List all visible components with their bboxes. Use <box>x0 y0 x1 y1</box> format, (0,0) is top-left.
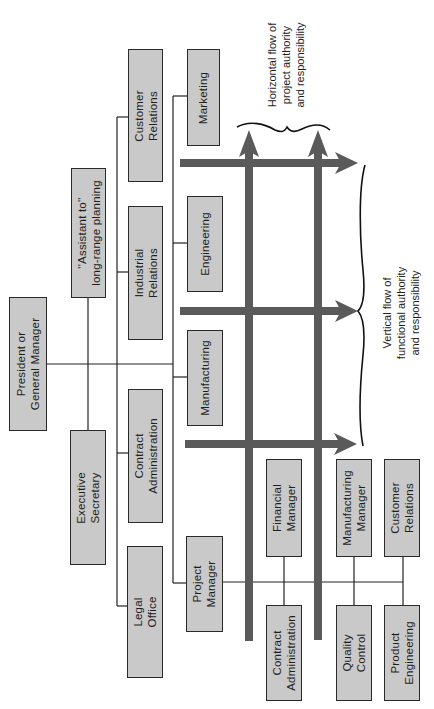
quality-control-label: Quality Control <box>340 634 368 672</box>
contract-administration-staff-box: Contract Administration <box>128 389 163 523</box>
product-engineering-box: Product Engineering <box>384 605 420 701</box>
manufacturing-manager-box: Manufacturing Manager <box>336 459 372 557</box>
vertical-flow-label: Vertical flow of functional authority an… <box>380 266 422 358</box>
marketing-box: Marketing <box>187 49 220 146</box>
contract-administration-staff-label: Contract Administration <box>132 418 160 494</box>
customer-relations-project-box: Customer Relations <box>384 459 420 557</box>
manufacturing-label: Manufacturing <box>198 340 212 415</box>
executive-secretary-box: Executive Secretary <box>70 430 106 565</box>
legal-office-label: Legal Office <box>131 596 159 627</box>
contract-administration-project-box: Contract Administration <box>266 605 302 701</box>
manufacturing-manager-label: Manufacturing Manager <box>340 470 368 545</box>
customer-relations-staff-box: Customer Relations <box>128 49 163 182</box>
horizontal-flow-label: Horizontal flow of project authority and… <box>264 23 306 108</box>
industrial-relations-box: Industrial Relations <box>128 206 163 340</box>
marketing-label: Marketing <box>197 71 211 123</box>
president-box: President or General Manager <box>9 297 47 431</box>
customer-relations-project-label: Customer Relations <box>388 482 416 533</box>
engineering-box: Engineering <box>187 196 223 292</box>
customer-relations-staff-label: Customer Relations <box>132 90 160 141</box>
assistant-long-range-planning-box: ''Assistant to'' long-range planning <box>71 168 106 298</box>
financial-manager-label: Financial Manager <box>270 484 298 532</box>
engineering-label: Engineering <box>198 212 212 276</box>
legal-office-box: Legal Office <box>127 546 163 678</box>
vertical-flow-annotation: Vertical flow of functional authority an… <box>368 240 434 385</box>
project-manager-box: Project Manager <box>186 536 223 632</box>
president-label: President or General Manager <box>14 318 42 411</box>
financial-manager-box: Financial Manager <box>266 459 302 557</box>
assistant-label: ''Assistant to'' long-range planning <box>75 180 103 285</box>
horizontal-flow-annotation: Horizontal flow of project authority and… <box>250 10 320 120</box>
project-manager-label: Project Manager <box>191 561 219 608</box>
quality-control-box: Quality Control <box>336 605 372 701</box>
executive-secretary-label: Executive Secretary <box>74 472 102 524</box>
contract-administration-project-label: Contract Administration <box>270 615 298 691</box>
industrial-relations-label: Industrial Relations <box>132 248 160 298</box>
product-engineering-label: Product Engineering <box>388 621 416 685</box>
manufacturing-box: Manufacturing <box>187 330 223 426</box>
matrix-org-chart: President or General Manager ''Assistant… <box>0 0 434 709</box>
